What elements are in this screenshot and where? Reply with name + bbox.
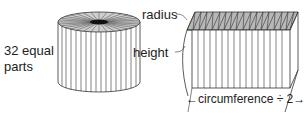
height-label: height (133, 45, 168, 60)
circumference-label: ←circumference ÷ 2→ (186, 92, 305, 107)
cylinder (58, 12, 140, 92)
parts-label-line1: 32 equal (4, 43, 54, 58)
radius-label: radius (142, 7, 177, 22)
parts-label-line2: parts (4, 59, 33, 74)
